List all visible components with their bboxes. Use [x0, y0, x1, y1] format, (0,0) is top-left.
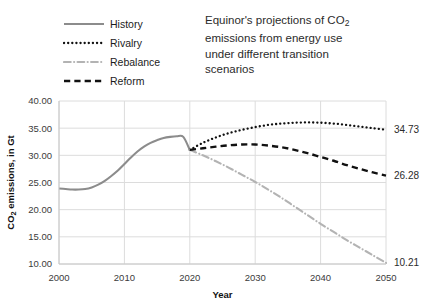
- y-tick-label: 10.00: [28, 258, 52, 269]
- y-tick-label: 15.00: [28, 231, 52, 242]
- y-tick-label: 30.00: [28, 150, 52, 161]
- series-line-rivalry: [190, 122, 386, 149]
- end-label-rebalance: 10.21: [394, 257, 419, 268]
- x-tick-label: 2030: [245, 272, 266, 283]
- x-tick-label: 2020: [179, 272, 200, 283]
- y-tick-label: 35.00: [28, 123, 52, 134]
- end-label-reform: 26.28: [394, 170, 419, 181]
- x-tick-label: 2010: [114, 272, 135, 283]
- series-line-reform: [190, 144, 386, 175]
- y-tick-label: 40.00: [28, 95, 52, 106]
- x-tick-label: 2040: [310, 272, 331, 283]
- x-axis-title: Year: [212, 289, 232, 300]
- y-tick-label: 25.00: [28, 177, 52, 188]
- x-tick-label: 2000: [48, 272, 69, 283]
- y-axis-title: CO2 emissions, in Gt: [5, 134, 18, 229]
- chart-page: HistoryRivalryRebalanceReform Equinor's …: [0, 0, 440, 307]
- y-tick-label: 20.00: [28, 204, 52, 215]
- x-tick-label: 2050: [375, 272, 396, 283]
- plot-area: 10.0015.0020.0025.0030.0035.0040.0020002…: [0, 0, 440, 307]
- end-label-rivalry: 34.73: [394, 124, 419, 135]
